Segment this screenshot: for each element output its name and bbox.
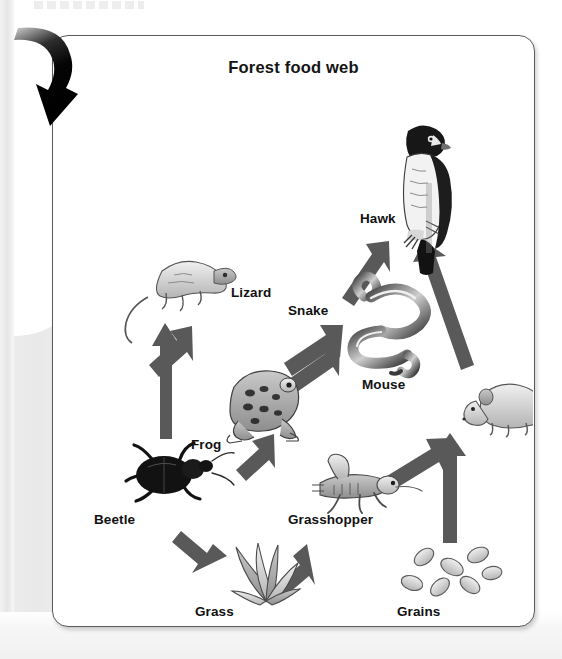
energy-flow-arrows — [149, 241, 474, 598]
hawk-illustration — [404, 125, 452, 275]
node-label-mouse: Mouse — [362, 377, 405, 392]
grasshopper-illustration — [312, 454, 422, 513]
node-label-beetle: Beetle — [94, 512, 135, 527]
node-label-snake: Snake — [288, 303, 328, 318]
node-label-lizard: Lizard — [231, 285, 271, 300]
arrow-grass-to-beetle — [172, 531, 227, 573]
food-web-canvas — [52, 35, 533, 625]
curved-callout-arrow — [10, 22, 90, 132]
faint-header-text — [34, 1, 144, 9]
grass-illustration — [232, 543, 300, 605]
snake-illustration — [353, 276, 426, 374]
node-label-hawk: Hawk — [360, 211, 396, 226]
node-label-grasshopper: Grasshopper — [288, 512, 373, 527]
frog-illustration — [227, 371, 299, 443]
node-label-frog: Frog — [191, 437, 221, 452]
grains-illustration — [399, 544, 503, 599]
node-label-grains: Grains — [397, 604, 440, 619]
arrow-beetle-to-lizard — [152, 323, 180, 439]
node-label-grass: Grass — [195, 604, 234, 619]
food-web-diagram: Hawk Lizard Snake Mouse Frog Beetle Gras… — [52, 35, 533, 625]
mouse-illustration — [462, 384, 533, 445]
